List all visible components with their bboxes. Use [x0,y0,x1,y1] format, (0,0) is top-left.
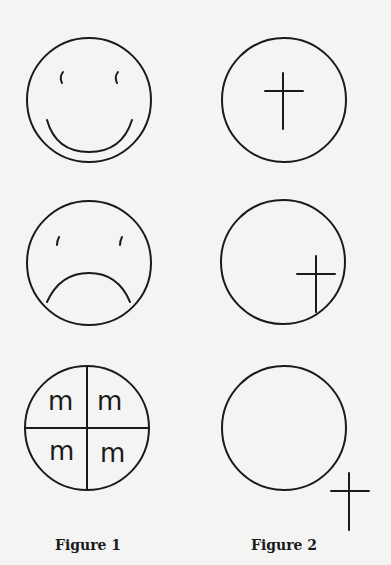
cross-outside [222,366,369,530]
right-eye [120,237,122,245]
frowning-face [27,201,151,325]
left-eye [57,237,59,245]
quadrant-letter: m [100,438,125,468]
face-outline [27,201,151,325]
smile-mouth [47,120,132,152]
circle-outline [221,200,345,324]
quadrant-letter: m [48,386,73,416]
figure-canvas: m m m m [0,0,391,565]
quadrant-letter: m [97,386,122,416]
right-eye [116,72,118,83]
left-eye [61,72,63,83]
quadrant-letter: m [49,436,74,466]
circle-outline [222,366,346,490]
figure-2-caption: Figure 2 [251,537,317,553]
figure-1-caption: Figure 1 [55,537,121,553]
cross-lower-right-inside [221,200,345,324]
frown-mouth [47,273,130,302]
cross-centered [222,38,346,162]
face-outline [27,38,151,162]
quartered-circle: m m m m [25,366,149,490]
smiling-face [27,38,151,162]
